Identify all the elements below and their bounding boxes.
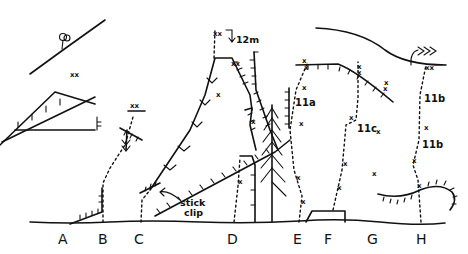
rappel-arrow: [226, 30, 235, 42]
route-label-b: B: [98, 231, 108, 247]
stick-clip-label-2: clip: [184, 207, 203, 218]
route-label-a: A: [58, 231, 68, 247]
svg-text:x: x: [216, 91, 221, 99]
upper-left-ridge: [30, 20, 105, 74]
bolt-marker: xx: [70, 71, 80, 79]
svg-text:x: x: [296, 174, 301, 182]
svg-text:x: x: [251, 118, 256, 126]
route-c-line: [141, 190, 150, 222]
svg-text:x: x: [337, 184, 342, 192]
route-d-line: [234, 158, 240, 222]
upper-right-ridge: [316, 28, 446, 65]
svg-text:x: x: [238, 178, 243, 186]
svg-text:x: x: [301, 198, 306, 206]
ground-line: [30, 220, 445, 225]
pine-tree-icon: [261, 105, 286, 222]
route-label-f: F: [324, 231, 332, 247]
route-label-d: D: [227, 231, 238, 247]
stick-clip-arrow: [160, 188, 180, 200]
rappel-height-label: 12m: [236, 34, 259, 45]
svg-text:x: x: [372, 170, 377, 178]
svg-text:x: x: [412, 157, 417, 165]
svg-text:x: x: [383, 85, 388, 93]
route-a-line: [70, 188, 102, 224]
route-label-e: E: [293, 231, 302, 247]
grade-label-h-lower: 11b: [422, 139, 443, 150]
route-label-c: C: [134, 231, 144, 247]
topo-diagram: xx xx stick clip: [0, 0, 468, 254]
svg-text:xx: xx: [130, 102, 140, 110]
svg-text:x: x: [302, 84, 307, 92]
svg-text:x: x: [302, 57, 307, 65]
svg-text:x: x: [424, 124, 429, 132]
left-arete: [150, 58, 252, 190]
left-ledge: [0, 92, 95, 145]
svg-text:x: x: [357, 69, 362, 77]
svg-text:x: x: [349, 114, 354, 122]
svg-text:x: x: [299, 120, 304, 128]
grade-label-h-upper: 11b: [424, 93, 445, 104]
grade-label-e: 11a: [295, 97, 316, 108]
grade-label-f: 11c: [357, 123, 377, 134]
svg-text:x: x: [343, 160, 348, 168]
svg-text:xx: xx: [213, 30, 223, 38]
route-label-g: G: [367, 231, 378, 247]
route-label-h: H: [416, 231, 427, 247]
svg-text:xx: xx: [231, 60, 241, 68]
